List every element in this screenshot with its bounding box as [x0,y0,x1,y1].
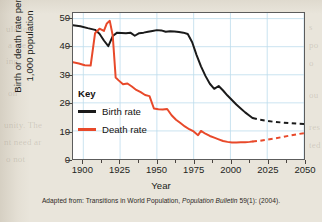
legend-title: Key [78,88,147,99]
paper-top-strip [0,0,322,9]
x-tick-mark [157,160,158,164]
x-minor-tick-mark [175,160,176,163]
x-minor-tick-mark [101,160,102,163]
ghost-text: o not [6,154,25,164]
x-tick-label: 1975 [174,165,214,175]
ghost-text: unity. The [4,120,42,130]
x-tick-label: 2000 [211,165,251,175]
caption-suffix: 59(1): (2004). [238,197,281,204]
legend-label-death-rate: Death rate [102,124,147,135]
x-minor-tick-mark [138,160,139,163]
ghost-text: ou [309,90,318,100]
x-tick-label: 2050 [285,165,322,175]
x-tick-label: 1950 [137,165,177,175]
x-tick-mark [231,160,232,164]
x-tick-mark [305,160,306,164]
ghost-text: nt need ar [4,137,41,147]
ghost-text: o [309,58,314,68]
figure-container: ulation a are ing on unity. The nt need … [0,0,322,222]
ghost-text: ted [309,140,321,150]
x-tick-label: 2025 [248,165,288,175]
chart-legend: Key Birth rate Death rate [78,88,147,142]
ghost-text: s [309,22,313,32]
caption-prefix: Adapted from: Transitions in World Popul… [42,197,182,204]
x-tick-label: 1925 [99,165,139,175]
x-minor-tick-mark [286,160,287,163]
x-minor-tick-mark [212,160,213,163]
x-tick-mark [119,160,120,164]
x-tick-mark [82,160,83,164]
x-axis-title: Year [0,180,322,191]
ghost-text: po [309,40,318,50]
y-axis-title: Birth or death rate per 1,000 population [12,0,36,98]
x-tick-mark [194,160,195,164]
legend-label-birth-rate: Birth rate [102,106,141,117]
legend-item-death-rate: Death rate [78,124,147,135]
x-minor-tick-mark [249,160,250,163]
figure-caption: Adapted from: Transitions in World Popul… [0,197,322,204]
y-tick-mark [66,160,72,161]
legend-swatch-birth-rate [78,110,96,112]
ghost-text: res [309,122,320,132]
legend-swatch-death-rate [78,128,96,130]
x-tick-mark [268,160,269,164]
legend-item-birth-rate: Birth rate [78,106,147,117]
x-tick-label: 1900 [62,165,102,175]
caption-source-title: Population Bulletin [182,197,238,204]
